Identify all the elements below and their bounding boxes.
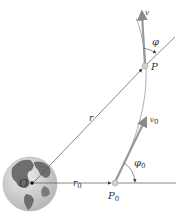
- earth-globe-icon: [3, 157, 57, 211]
- v0-vector: [115, 120, 145, 182]
- label-r: r: [89, 113, 94, 123]
- orbit-trajectory: [114, 18, 146, 183]
- point-origin: [30, 181, 34, 185]
- label-r0: r0: [73, 178, 82, 190]
- label-v: v: [145, 9, 149, 17]
- point-p: [142, 63, 148, 69]
- r-vector: [33, 69, 142, 183]
- label-phi: φ: [152, 36, 159, 47]
- label-p0: P0: [107, 190, 119, 203]
- orbit-diagram: O r r0 P P0 v v0 φ φ0: [0, 0, 184, 217]
- point-p0: [112, 180, 118, 186]
- label-v0: v0: [150, 116, 158, 126]
- v-vector: [142, 14, 145, 66]
- label-phi0: φ0: [134, 157, 145, 170]
- label-p: P: [150, 61, 158, 72]
- label-origin: O: [19, 177, 28, 190]
